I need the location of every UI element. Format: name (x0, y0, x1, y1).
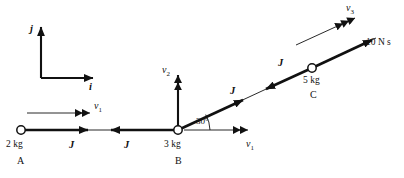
diagram-canvas (0, 0, 404, 178)
segment-ab (21, 113, 178, 130)
mass-label-c: 5 kg (303, 76, 320, 86)
coordinate-axes (41, 27, 93, 78)
node-label-b: B (175, 156, 182, 166)
impulse-label-bc-upper: J (278, 58, 283, 69)
axis-label-i: i (89, 82, 92, 93)
physics-diagram: j i 2 kg A 3 kg B 5 kg C J J J J 10 N s … (0, 0, 404, 178)
node-label-c: C (310, 90, 317, 100)
axis-label-j: j (30, 24, 33, 35)
impulse-arrow-bc-lower (178, 100, 243, 130)
velocity-label-v2: v2 (162, 65, 170, 78)
velocity-label-v3-subscript: 3 (350, 8, 354, 16)
velocity-label-v1-right: v1 (246, 139, 254, 152)
velocity-label-v2-subscript: 2 (166, 70, 170, 78)
node-circle-c (308, 64, 316, 72)
angle-label-30: 30° (196, 117, 209, 126)
impulse-arrow-applied (312, 40, 372, 68)
velocity-label-v1-right-subscript: 1 (250, 144, 254, 152)
node-circle-b (174, 126, 182, 134)
impulse-label-applied: 10 N s (366, 38, 391, 48)
velocity-label-v1-left-subscript: 1 (98, 106, 102, 114)
velocity-arrow-v3 (296, 18, 355, 45)
segment-bc (178, 18, 376, 130)
impulse-label-bc-lower: J (230, 86, 235, 97)
velocity-label-v1-left: v1 (94, 101, 102, 114)
velocity-label-v3: v3 (346, 3, 354, 16)
mass-label-b: 3 kg (164, 140, 181, 150)
node-label-a: A (17, 156, 24, 166)
node-circle-a (17, 126, 25, 134)
impulse-label-ab-left: J (69, 140, 74, 151)
mass-label-a: 2 kg (6, 140, 23, 150)
impulse-label-ab-right: J (124, 140, 129, 151)
